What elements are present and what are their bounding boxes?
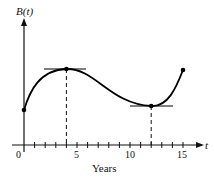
x-axis-title: Years [92,162,117,174]
tick-label-0: 0 [16,149,21,160]
tick-label-10: 10 [125,149,135,160]
x-axis-arrow-icon [196,142,204,148]
curve-B [24,69,183,110]
point-start [22,108,27,113]
point-end [181,68,186,73]
y-axis-label: B(t) [16,5,33,18]
tick-label-15: 15 [177,149,187,160]
y-axis-arrow-icon [21,18,27,26]
tick-label-5: 5 [74,149,79,160]
x-axis-var-label: t [205,139,209,151]
point-min [149,104,154,109]
chart: B(t) t 0 5 10 15 Years [0,0,214,182]
point-max [64,67,69,72]
